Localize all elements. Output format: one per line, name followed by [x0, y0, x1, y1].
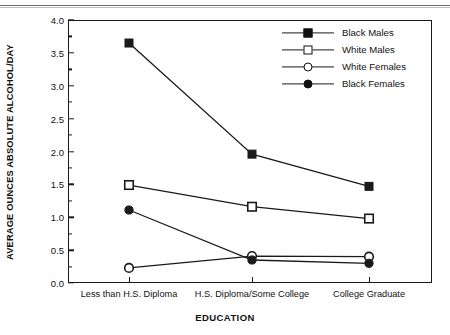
legend-marker-sample — [280, 43, 336, 57]
y-tick-label: 0.5 — [30, 245, 64, 256]
y-tick-label: 4.0 — [30, 15, 64, 26]
chart-figure: AVERAGE OUNCES ABSOLUTE ALCOHOL/DAY 0.00… — [0, 0, 450, 335]
y-tick-label: 2.5 — [30, 113, 64, 124]
legend-item: Black Males — [280, 24, 432, 41]
x-tick-mark — [129, 277, 130, 283]
legend-marker-icon — [304, 62, 313, 71]
x-tick-mark — [369, 277, 370, 283]
legend-item: White Females — [280, 58, 432, 75]
y-axis-title: AVERAGE OUNCES ABSOLUTE ALCOHOL/DAY — [2, 20, 18, 283]
legend-item-label: Black Males — [336, 27, 394, 38]
legend-marker-icon — [304, 28, 313, 37]
legend-marker-icon — [304, 45, 313, 54]
y-tick-label: 2.0 — [30, 146, 64, 157]
legend-marker-sample — [280, 26, 336, 40]
y-tick-label: 1.0 — [30, 212, 64, 223]
y-tick-label: 3.5 — [30, 47, 64, 58]
x-tick-label: Less than H.S. Diploma — [81, 289, 178, 299]
legend-marker-sample — [280, 77, 336, 91]
chart-legend: Black MalesWhite MalesWhite FemalesBlack… — [280, 24, 432, 92]
y-tick-label: 3.0 — [30, 80, 64, 91]
legend-item: White Males — [280, 41, 432, 58]
legend-item-label: White Males — [336, 44, 395, 55]
y-axis-title-text: AVERAGE OUNCES ABSOLUTE ALCOHOL/DAY — [5, 44, 15, 260]
legend-item-label: White Females — [336, 61, 406, 72]
legend-marker-icon — [304, 79, 313, 88]
y-tick-label: 1.5 — [30, 179, 64, 190]
legend-item-label: Black Females — [336, 78, 405, 89]
x-tick-label: H.S. Diploma/Some College — [195, 289, 309, 299]
x-axis-title: EDUCATION — [0, 312, 450, 323]
legend-marker-sample — [280, 60, 336, 74]
x-tick-mark — [252, 277, 253, 283]
legend-item: Black Females — [280, 75, 432, 92]
x-tick-label: College Graduate — [333, 289, 405, 299]
